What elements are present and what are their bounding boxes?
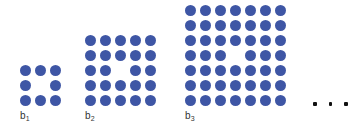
dot — [145, 35, 156, 46]
figure-b3: b3 — [185, 5, 286, 122]
dot — [230, 35, 241, 46]
dot — [260, 20, 271, 31]
dot — [200, 65, 211, 76]
dot — [100, 35, 111, 46]
dot — [20, 65, 31, 76]
dot — [260, 5, 271, 16]
figure-b1: b1 — [20, 65, 61, 122]
dot — [50, 95, 61, 106]
label-subscript: 2 — [91, 115, 95, 122]
dot — [275, 35, 286, 46]
dot — [200, 20, 211, 31]
dot — [85, 95, 96, 106]
dot — [215, 50, 226, 61]
dot — [20, 80, 31, 91]
dot — [35, 65, 46, 76]
dot — [115, 95, 126, 106]
dot — [215, 80, 226, 91]
dot — [260, 80, 271, 91]
dot — [85, 50, 96, 61]
dot — [245, 20, 256, 31]
figure-label-b1: b1 — [20, 110, 30, 122]
dot — [50, 65, 61, 76]
dot — [145, 50, 156, 61]
dot — [130, 50, 141, 61]
dot — [35, 95, 46, 106]
label-subscript: 1 — [26, 115, 30, 122]
figure-label-b2: b2 — [85, 110, 95, 122]
dot — [130, 80, 141, 91]
dot — [185, 5, 196, 16]
label-subscript: 3 — [191, 115, 195, 122]
dot — [260, 65, 271, 76]
dot — [115, 80, 126, 91]
dot — [100, 50, 111, 61]
dot — [115, 35, 126, 46]
dot — [130, 65, 141, 76]
figure-b2: b2 — [85, 35, 156, 122]
ellipsis-dot — [344, 102, 348, 106]
dot — [185, 35, 196, 46]
dot — [260, 95, 271, 106]
dot — [275, 65, 286, 76]
dot — [215, 95, 226, 106]
dot — [275, 20, 286, 31]
ellipsis-dot — [313, 102, 317, 106]
dot — [50, 80, 61, 91]
dot — [100, 80, 111, 91]
dot — [200, 35, 211, 46]
dot — [100, 65, 111, 76]
dot — [145, 95, 156, 106]
dot — [245, 80, 256, 91]
dot — [130, 35, 141, 46]
continuation-ellipsis — [313, 102, 348, 106]
ellipsis-dot — [329, 102, 333, 106]
dot — [215, 20, 226, 31]
dot — [200, 5, 211, 16]
figure-label-b3: b3 — [185, 110, 195, 122]
dot — [230, 20, 241, 31]
dot-grid-b3 — [185, 5, 286, 106]
dot — [200, 80, 211, 91]
dot — [185, 95, 196, 106]
dot — [215, 5, 226, 16]
dot — [275, 95, 286, 106]
dot — [115, 50, 126, 61]
dot-grid-b2 — [85, 35, 156, 106]
dot — [145, 65, 156, 76]
dot — [260, 50, 271, 61]
dot — [230, 5, 241, 16]
dot — [230, 65, 241, 76]
dot — [215, 65, 226, 76]
dot — [260, 35, 271, 46]
dot — [275, 80, 286, 91]
dot — [20, 95, 31, 106]
dot — [245, 5, 256, 16]
dot — [130, 95, 141, 106]
dot — [275, 5, 286, 16]
dot — [185, 80, 196, 91]
dot — [275, 50, 286, 61]
dot — [245, 35, 256, 46]
dot — [245, 95, 256, 106]
dot — [200, 95, 211, 106]
dot — [245, 50, 256, 61]
dot — [185, 50, 196, 61]
dot — [200, 50, 211, 61]
dot — [100, 95, 111, 106]
dot — [185, 20, 196, 31]
dot-grid-b1 — [20, 65, 61, 106]
dot — [85, 80, 96, 91]
dot — [85, 65, 96, 76]
dot — [245, 65, 256, 76]
dot — [185, 65, 196, 76]
dot — [85, 35, 96, 46]
dot — [145, 80, 156, 91]
dot — [230, 80, 241, 91]
dot — [215, 35, 226, 46]
dot-pattern-sequence-diagram: b1 b2 b3 — [0, 0, 356, 135]
dot — [230, 95, 241, 106]
